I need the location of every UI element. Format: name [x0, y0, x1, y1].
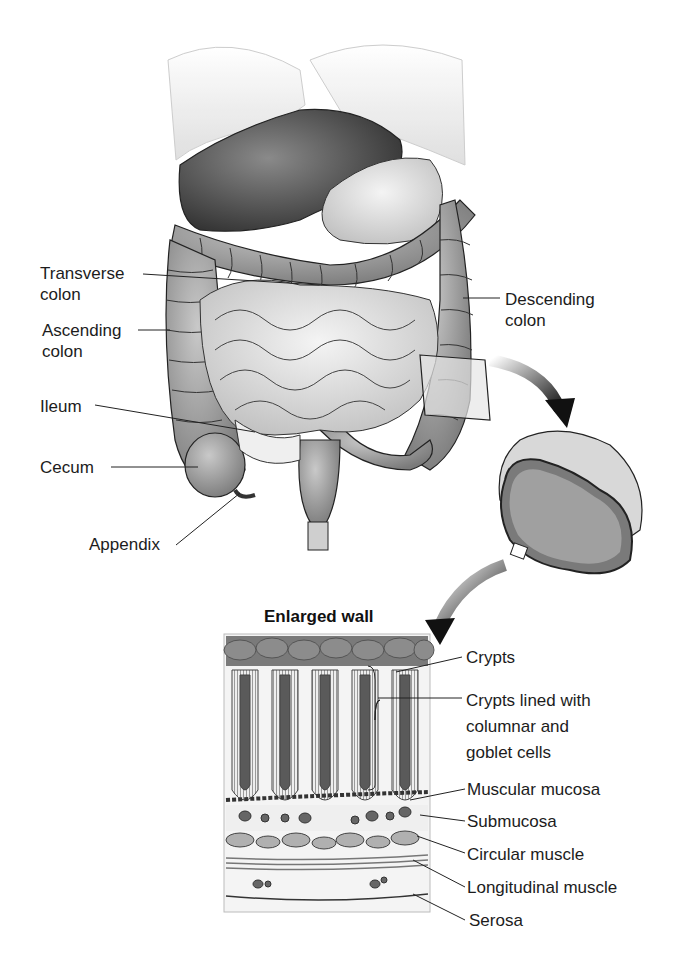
label-cecum: Cecum [40, 457, 94, 478]
label-longitudinal-muscle: Longitudinal muscle [467, 877, 617, 898]
appendix [235, 490, 255, 497]
label-serosa: Serosa [469, 910, 523, 931]
label-transverse-colon: Transverse colon [40, 263, 124, 305]
label-ascending-colon: Ascending colon [42, 320, 121, 362]
label-ileum: Ileum [40, 396, 82, 417]
label-descending-colon: Descending colon [505, 289, 595, 331]
label-crypts: Crypts [466, 647, 515, 668]
anatomy-illustration [0, 0, 689, 961]
label-crypts-lined: Crypts lined with columnar and goblet ce… [466, 688, 591, 766]
arrow-to-enlarged-wall [440, 565, 505, 625]
label-appendix: Appendix [89, 534, 160, 555]
cecum [185, 433, 245, 497]
enlarged-wall-panel [224, 634, 434, 912]
rectum [299, 440, 340, 525]
enlarged-wall-title: Enlarged wall [264, 607, 374, 627]
label-submucosa: Submucosa [467, 811, 557, 832]
section-plane [420, 355, 490, 420]
anal-canal [308, 522, 328, 550]
colon-cross-section [499, 431, 642, 573]
label-circular-muscle: Circular muscle [467, 844, 584, 865]
label-muscular-mucosa: Muscular mucosa [467, 779, 600, 800]
